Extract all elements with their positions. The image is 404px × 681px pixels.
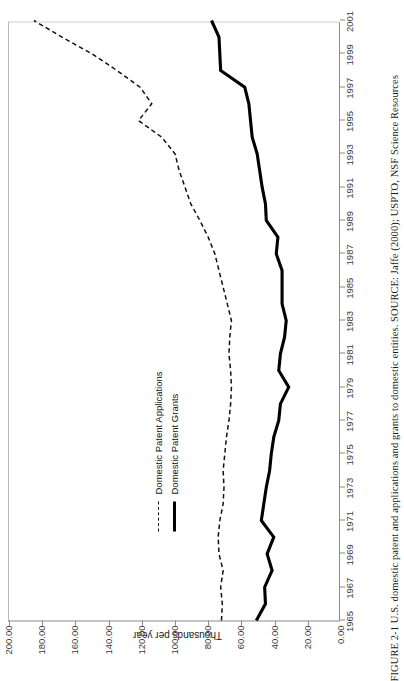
y-tick-label: 80.00	[202, 625, 213, 649]
chart-legend: Domestic Patent Applications Domestic Pa…	[150, 371, 182, 531]
chart-area: Thousands per year 0.0020.0040.0060.0080…	[0, 0, 381, 681]
y-tick-label: 60.00	[235, 625, 246, 649]
solid-line-swatch-icon	[173, 501, 176, 531]
x-tick-label: 1975	[344, 444, 355, 465]
y-tick-label: 120.00	[135, 625, 146, 654]
y-tick-mark	[9, 620, 10, 625]
figure-caption: FIGURE 2-1 U.S. domestic patent and appl…	[388, 0, 404, 681]
series-line-domestic-patent-applications	[34, 20, 232, 620]
y-tick-label: 180.00	[36, 625, 47, 654]
x-tick-label: 1993	[344, 144, 355, 165]
y-tick-mark	[75, 620, 76, 625]
figure-page: Thousands per year 0.0020.0040.0060.0080…	[0, 0, 404, 681]
x-tick-label: 1987	[344, 244, 355, 265]
y-tick-mark	[142, 620, 143, 625]
figure-stage: Thousands per year 0.0020.0040.0060.0080…	[0, 0, 404, 681]
x-tick-label: 1999	[344, 44, 355, 65]
dashed-line-swatch-icon	[158, 501, 159, 531]
y-tick-mark	[208, 620, 209, 625]
x-tick-label: 2001	[344, 10, 355, 31]
y-tick-mark	[109, 620, 110, 625]
legend-item-grants: Domestic Patent Grants	[166, 371, 182, 531]
x-tick-label: 1967	[344, 577, 355, 598]
x-tick-label: 1969	[344, 544, 355, 565]
legend-label-applications: Domestic Patent Applications	[153, 371, 164, 494]
x-tick-label: 1989	[344, 210, 355, 231]
x-tick-label: 1995	[344, 110, 355, 131]
x-tick-label: 1977	[344, 410, 355, 431]
x-tick-label: 1965	[344, 610, 355, 631]
y-tick-mark	[308, 620, 309, 625]
y-tick-label: 140.00	[102, 625, 113, 654]
y-axis-tick-labels: 0.0020.0040.0060.0080.00100.00120.00140.…	[8, 625, 340, 659]
y-tick-label: 20.00	[301, 625, 312, 649]
x-tick-label: 1971	[344, 510, 355, 531]
y-tick-label: 40.00	[268, 625, 279, 649]
y-tick-mark	[175, 620, 176, 625]
y-tick-mark	[275, 620, 276, 625]
x-axis-tick-labels: 1965196719691971197319751977197919811983…	[344, 21, 374, 621]
y-tick-mark	[241, 620, 242, 625]
x-tick-label: 1981	[344, 344, 355, 365]
y-tick-mark	[42, 620, 43, 625]
y-tick-label: 160.00	[69, 625, 80, 654]
x-tick-label: 1979	[344, 377, 355, 398]
x-tick-label: 1997	[344, 77, 355, 98]
x-tick-label: 1973	[344, 477, 355, 498]
legend-label-grants: Domestic Patent Grants	[169, 393, 180, 494]
x-tick-label: 1985	[344, 277, 355, 298]
x-tick-label: 1991	[344, 177, 355, 198]
x-tick-label: 1983	[344, 310, 355, 331]
y-tick-label: 200.00	[3, 625, 14, 654]
legend-item-applications: Domestic Patent Applications	[150, 371, 166, 531]
y-tick-label: 100.00	[169, 625, 180, 654]
series-line-domestic-patent-grants	[212, 20, 289, 620]
